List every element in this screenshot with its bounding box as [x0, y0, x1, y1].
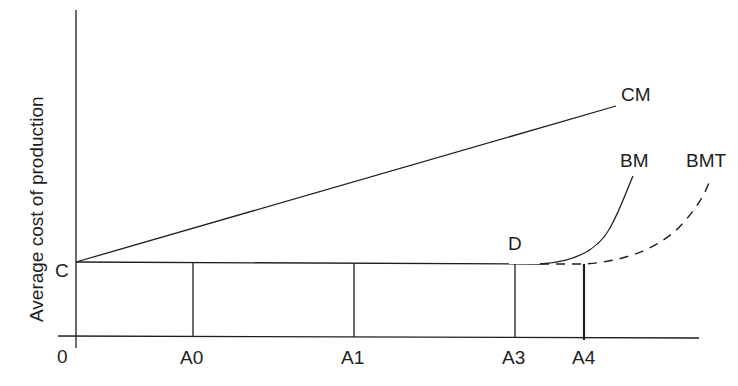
- origin-label: 0: [57, 346, 68, 367]
- cm-label: CM: [621, 84, 651, 105]
- flat-cost-line: [76, 262, 540, 264]
- a3-label: A3: [502, 347, 525, 368]
- bmt-curve: [540, 180, 710, 264]
- cm-curve: [76, 106, 616, 262]
- y-axis-label: Average cost of production: [26, 96, 47, 322]
- a0-label: A0: [180, 347, 203, 368]
- x-axis: [58, 336, 699, 338]
- cost-diagram: Average cost of production 0 C CM BM BMT…: [0, 0, 738, 386]
- a1-label: A1: [341, 347, 364, 368]
- bm-curve: [540, 176, 633, 264]
- diagram-canvas: Average cost of production 0 C CM BM BMT…: [0, 0, 738, 386]
- c-tick-label: C: [55, 260, 69, 281]
- bm-label: BM: [620, 150, 649, 171]
- point-d-label: D: [508, 233, 522, 254]
- bmt-label: BMT: [686, 150, 727, 171]
- a4-label: A4: [572, 347, 596, 368]
